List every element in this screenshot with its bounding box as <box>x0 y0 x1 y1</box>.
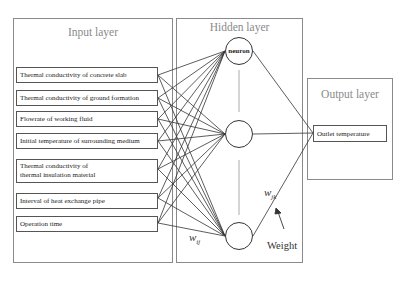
input-label-line2: thermal insulation material <box>20 171 154 180</box>
input-to-hidden-weights <box>158 51 225 236</box>
input-node-flowrate: Flowrate of working fluid <box>16 111 158 127</box>
input-label: Initial temperature of surrounding mediu… <box>20 137 154 146</box>
hidden-to-output-weights <box>253 51 313 236</box>
hidden-neuron-3 <box>225 222 253 250</box>
input-node-operation-time: Operation time <box>16 216 158 232</box>
input-label: Thermal conductivity of ground formation <box>20 94 154 103</box>
input-label: Thermal conductivity of <box>20 162 154 171</box>
hidden-neuron-2 <box>225 120 253 148</box>
input-label: Flowrate of working fluid <box>20 115 154 124</box>
output-node-outlet-temperature: Outlet temperature <box>313 125 387 142</box>
weight-wij-label: wij <box>189 231 200 246</box>
w-subscript: ij <box>196 238 200 246</box>
input-label: Thermal conductivity of concrete slab <box>20 71 154 80</box>
output-label: Outlet temperature <box>317 130 370 138</box>
w-subscript: jk <box>271 193 276 201</box>
hidden-neuron-1: neuron <box>225 37 253 65</box>
input-node-pipe-interval: Interval of heat exchange pipe <box>16 193 158 209</box>
input-node-initial-temperature: Initial temperature of surrounding mediu… <box>16 133 158 149</box>
weight-arrow-icon <box>275 208 284 229</box>
input-node-insulation-conductivity: Thermal conductivity of thermal insulati… <box>16 159 158 183</box>
input-label: Operation time <box>20 220 154 229</box>
weight-annotation: Weight <box>267 240 297 251</box>
input-node-concrete-slab: Thermal conductivity of concrete slab <box>16 67 158 83</box>
weight-wjk-label: wjk <box>264 186 276 201</box>
input-label: Interval of heat exchange pipe <box>20 197 154 206</box>
neuron-label: neuron <box>228 47 249 55</box>
input-node-ground-formation: Thermal conductivity of ground formation <box>16 90 158 106</box>
